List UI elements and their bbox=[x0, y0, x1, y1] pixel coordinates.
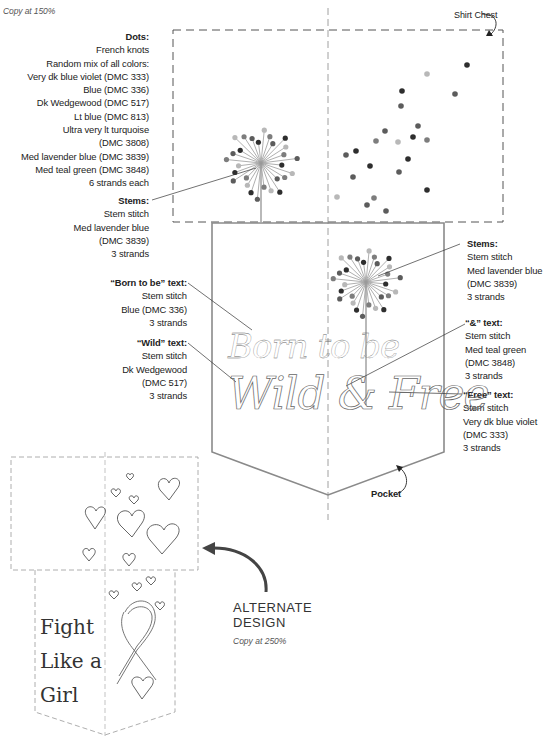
heart-icon bbox=[129, 496, 138, 504]
note-line: Med lavender blue bbox=[29, 221, 149, 234]
copy-note: Copy at 150% bbox=[3, 5, 55, 18]
pocket-label: Pocket bbox=[371, 487, 401, 500]
leader-born-to-be bbox=[188, 283, 252, 330]
arrow-head-icon bbox=[396, 465, 403, 472]
note-line: (DMC 3839) bbox=[467, 277, 545, 290]
note-line: Stem stitch bbox=[29, 207, 149, 220]
note-line: 3 strands bbox=[67, 389, 187, 402]
french-knot-dot bbox=[270, 141, 275, 146]
leader-stems-left bbox=[152, 168, 256, 200]
french-knot-dot bbox=[261, 185, 266, 190]
note-line: 3 strands bbox=[463, 441, 545, 454]
note-line: Med lavender blue bbox=[467, 264, 545, 277]
french-knot-dot bbox=[347, 255, 352, 260]
note-line: Ultra very lt turquoise bbox=[0, 123, 149, 136]
french-knot-dot bbox=[424, 187, 430, 193]
note-line: 3 strands bbox=[67, 316, 187, 329]
scattered-french-knots bbox=[334, 62, 470, 214]
note-title: Stems: bbox=[467, 237, 545, 250]
note-line: (DMC 3839) bbox=[29, 234, 149, 247]
french-knot-dot bbox=[337, 296, 342, 301]
heart-icon bbox=[132, 583, 141, 591]
heart-icon bbox=[123, 553, 135, 566]
french-knot-dot bbox=[268, 188, 273, 193]
heart-icon bbox=[109, 591, 118, 599]
note-stems-right: Stems: Stem stitch Med lavender blue (DM… bbox=[467, 237, 545, 303]
french-knot-dot bbox=[415, 123, 421, 129]
heart-icon bbox=[155, 602, 164, 610]
alt-text-line: Girl bbox=[40, 678, 102, 712]
note-line: Dk Wedgewood bbox=[67, 363, 187, 376]
french-knot-dot bbox=[241, 134, 246, 139]
french-knot-dot bbox=[373, 306, 378, 311]
french-knot-dot bbox=[230, 151, 235, 156]
french-knot-dot bbox=[367, 163, 373, 169]
french-knot-dot bbox=[249, 136, 254, 141]
french-knot-dot bbox=[342, 282, 347, 287]
heart-icon bbox=[85, 507, 105, 529]
french-knot-dot bbox=[383, 208, 389, 214]
french-knot-dot bbox=[361, 260, 366, 265]
french-knot-dot bbox=[393, 289, 398, 294]
note-line: Random mix of all colors: bbox=[0, 57, 149, 70]
alt-text-line: Like a bbox=[40, 644, 102, 678]
note-line: Stem stitch bbox=[467, 250, 545, 263]
note-line: Stem stitch bbox=[465, 329, 545, 342]
note-line: Med lavender blue (DMC 3839) bbox=[0, 150, 149, 163]
french-knot-dot bbox=[424, 137, 430, 143]
french-knot-dot bbox=[353, 148, 359, 154]
alternate-design-title: ALTERNATE DESIGN bbox=[233, 600, 312, 630]
french-knot-dot bbox=[395, 139, 401, 145]
french-knot-dot bbox=[355, 256, 360, 261]
note-line: French knots bbox=[0, 43, 149, 56]
french-knot-dot bbox=[295, 156, 300, 161]
note-line: Lt blue (DMC 813) bbox=[0, 110, 149, 123]
french-knot-dot bbox=[232, 135, 237, 140]
shirt-chest-outline bbox=[173, 30, 503, 222]
french-knot-dot bbox=[381, 307, 386, 312]
french-knot-dot bbox=[364, 202, 370, 208]
french-knot-dot bbox=[245, 183, 250, 188]
note-title: “Wild” text: bbox=[67, 336, 187, 349]
french-knot-dot bbox=[386, 256, 391, 261]
french-knot-dot bbox=[275, 176, 280, 181]
french-knot-dot bbox=[331, 276, 336, 281]
left-dandelion bbox=[224, 128, 300, 202]
french-knot-dot bbox=[405, 156, 411, 162]
french-knot-dot bbox=[337, 270, 342, 275]
awareness-ribbon-icon bbox=[117, 601, 156, 684]
heart-icon bbox=[146, 577, 155, 585]
alt-title-line: DESIGN bbox=[233, 615, 312, 630]
note-title: Stems: bbox=[29, 194, 149, 207]
french-knot-dot bbox=[379, 294, 384, 299]
note-line: (DMC 333) bbox=[463, 428, 545, 441]
note-title: “Born to be” text: bbox=[67, 276, 187, 289]
alternate-arrow bbox=[214, 548, 266, 592]
alt-chest-outline bbox=[11, 457, 198, 570]
french-knot-dot bbox=[256, 140, 261, 145]
french-knot-dot bbox=[351, 300, 356, 305]
french-knot-dot bbox=[386, 293, 391, 298]
french-knot-dot bbox=[279, 162, 284, 167]
heart-icon bbox=[111, 489, 120, 497]
heart-icon bbox=[158, 478, 179, 500]
french-knot-dot bbox=[334, 194, 340, 200]
french-knot-dot bbox=[372, 254, 377, 259]
french-knot-dot bbox=[344, 267, 349, 272]
french-knot-dot bbox=[255, 197, 260, 202]
french-knot-dot bbox=[410, 134, 416, 140]
right-dandelion bbox=[331, 248, 403, 319]
note-line: Stem stitch bbox=[67, 349, 187, 362]
french-knot-dot bbox=[339, 288, 344, 293]
french-knot-dot bbox=[231, 178, 236, 183]
note-wild: “Wild” text: Stem stitch Dk Wedgewood (D… bbox=[67, 336, 187, 402]
french-knot-dot bbox=[248, 190, 253, 195]
heart-icon bbox=[117, 510, 144, 537]
pocket-text-born-to-be: Born to be bbox=[228, 326, 399, 366]
french-knot-dot bbox=[360, 314, 365, 319]
french-knot-dot bbox=[354, 307, 359, 312]
french-knot-dot bbox=[424, 71, 430, 77]
french-knot-dot bbox=[373, 138, 379, 144]
french-knot-dot bbox=[267, 134, 272, 139]
note-line: (DMC 517) bbox=[67, 376, 187, 389]
